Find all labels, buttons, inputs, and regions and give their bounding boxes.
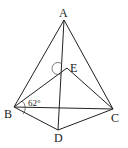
label-e: E: [70, 61, 77, 75]
segment-bd: [14, 107, 58, 130]
label-a: A: [59, 6, 68, 20]
label-b: B: [4, 107, 12, 121]
label-c: C: [111, 111, 119, 125]
label-d: D: [54, 131, 63, 145]
geometry-diagram: A E B C D 62°: [0, 0, 128, 148]
segment-cd: [58, 109, 113, 130]
segment-ab: [14, 20, 64, 107]
segment-ad: [58, 20, 64, 130]
angle-label-62: 62°: [28, 98, 41, 108]
